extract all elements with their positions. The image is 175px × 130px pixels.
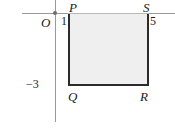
vertex-label-s: S: [143, 1, 150, 14]
coordinate-diagram: P S Q R O 1 5 −3: [0, 0, 175, 130]
y-tick-label-neg3: −3: [26, 78, 39, 90]
rectangle-top-edge: [68, 13, 149, 14]
vertex-label-q: Q: [68, 90, 77, 103]
x-tick-label-5: 5: [150, 15, 156, 27]
origin-label: O: [41, 16, 50, 29]
vertex-label-r: R: [140, 90, 148, 103]
vertex-label-p: P: [69, 1, 77, 14]
x-tick-label-1: 1: [61, 15, 67, 27]
origin-point: [53, 11, 57, 15]
y-axis: [55, 0, 56, 122]
rectangle-pqrs: [68, 13, 149, 86]
